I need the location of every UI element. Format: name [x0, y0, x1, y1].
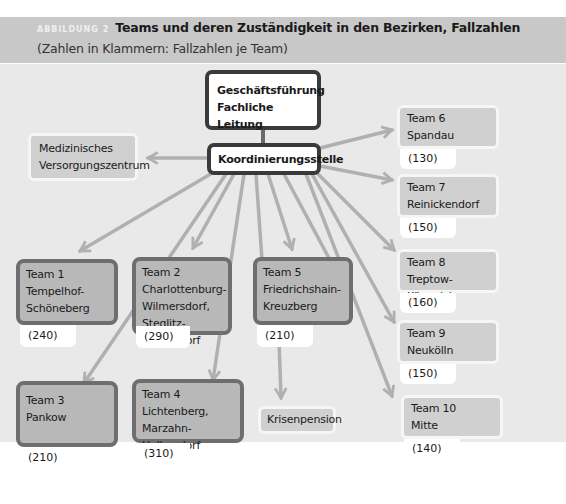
team-name: Team 9 [407, 325, 489, 342]
team-district: Lichtenberg, [142, 403, 234, 420]
team-9-count: (150) [400, 364, 456, 384]
team-name: Team 7 [407, 179, 489, 196]
team-name: Team 10 [411, 400, 493, 417]
mvz-box: Medizinisches Versorgungszentrum [28, 133, 138, 181]
team-district: Neukölln [407, 342, 489, 359]
team-7-box: Team 7 Reinickendorf [397, 174, 499, 218]
crisis-label: Krisenpension [267, 411, 327, 428]
team-district: Tempelhof- [26, 283, 108, 300]
team-district: Mitte [411, 417, 493, 434]
team-9-box: Team 9 Neukölln [397, 320, 499, 364]
team-6-box: Team 6 Spandau [397, 105, 499, 149]
team-1-box: Team 1 Tempelhof- Schöneberg [16, 259, 118, 325]
team-district: Reinickendorf [407, 196, 489, 213]
management-box: Geschäftsführung Fachliche Leitung [205, 70, 321, 130]
team-6-count: (130) [400, 149, 456, 169]
coordination-box: Koordinierungsstelle [207, 143, 321, 175]
management-line-2: Fachliche Leitung [217, 99, 309, 133]
team-district: Friedrichshain- [263, 281, 343, 298]
mvz-line-2: Versorgungszentrum [39, 157, 127, 174]
team-district: Schöneberg [26, 300, 108, 317]
team-name: Team 8 [407, 254, 489, 271]
team-name: Team 4 [142, 386, 234, 403]
team-1-count: (240) [20, 325, 76, 347]
team-7-count: (150) [400, 218, 456, 238]
team-10-box: Team 10 Mitte [401, 395, 503, 439]
team-name: Team 5 [263, 264, 343, 281]
mvz-line-1: Medizinisches [39, 140, 127, 157]
team-district: Wilmersdorf, [142, 298, 222, 315]
team-3-box: Team 3 Pankow [16, 381, 118, 447]
team-4-box: Team 4 Lichtenberg, Marzahn-Hellersdorf [132, 379, 244, 443]
coordination-label: Koordinierungsstelle [218, 151, 310, 168]
management-line-1: Geschäftsführung [217, 82, 309, 99]
team-district: Charlottenburg- [142, 281, 222, 298]
team-2-count: (290) [136, 326, 190, 348]
team-3-count: (210) [20, 447, 76, 469]
team-name: Team 1 [26, 266, 108, 283]
team-district: Pankow [26, 409, 108, 426]
team-10-count: (140) [404, 439, 460, 459]
team-district: Spandau [407, 127, 489, 144]
team-4-count: (310) [136, 443, 190, 465]
team-8-box: Team 8 Treptow-Köpenick [397, 249, 499, 293]
team-name: Team 6 [407, 110, 489, 127]
team-district: Kreuzberg [263, 298, 343, 315]
crisis-box: Krisenpension [258, 406, 336, 434]
team-5-box: Team 5 Friedrichshain- Kreuzberg [253, 257, 353, 325]
team-5-count: (210) [257, 325, 313, 347]
team-name: Team 2 [142, 264, 222, 281]
team-2-box: Team 2 Charlottenburg- Wilmersdorf, Steg… [132, 257, 232, 335]
team-name: Team 3 [26, 392, 108, 409]
team-8-count: (160) [400, 293, 456, 313]
